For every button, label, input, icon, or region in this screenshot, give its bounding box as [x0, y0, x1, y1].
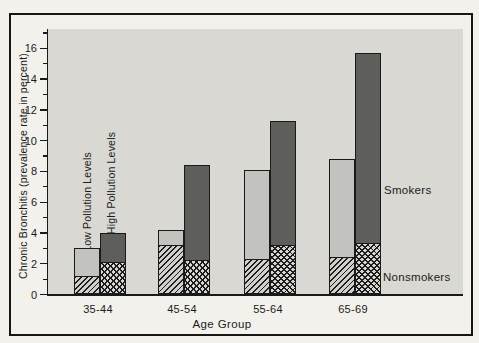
bar-low-pollution	[244, 170, 270, 295]
figure-frame: 0246810121416 35-4445-5455-6465-69 Chron…	[9, 13, 473, 336]
bar-high-pollution	[100, 233, 126, 295]
y-axis-title: Chronic Bronchitis (prevalence rate in p…	[17, 53, 29, 279]
smokers-annotation: Smokers	[384, 184, 431, 196]
bar-nonsmokers-segment	[330, 257, 354, 293]
figure-canvas: 0246810121416 35-4445-5455-6465-69 Chron…	[0, 0, 479, 343]
x-category-label: 55-64	[236, 303, 300, 316]
x-axis-title: Age Group	[162, 318, 282, 330]
bar-nonsmokers-segment	[271, 245, 295, 294]
bar-nonsmokers-segment	[356, 243, 380, 293]
bar-high-pollution	[184, 165, 210, 294]
nonsmokers-annotation: Nonsmokers	[383, 271, 451, 283]
x-category-label: 35-44	[66, 303, 130, 316]
bar-nonsmokers-segment	[245, 259, 269, 294]
low-pollution-series-label: Low Pollution Levels	[81, 152, 93, 252]
bar-nonsmokers-segment	[159, 245, 183, 294]
bar-nonsmokers-segment	[75, 276, 99, 294]
x-category-label: 45-54	[150, 303, 214, 316]
high-pollution-series-label: High Pollution Levels	[105, 132, 117, 234]
bar-high-pollution	[355, 53, 381, 295]
bar-low-pollution	[158, 230, 184, 295]
x-category-label: 65-69	[321, 303, 385, 316]
bar-nonsmokers-segment	[101, 262, 125, 294]
bar-nonsmokers-segment	[185, 260, 209, 293]
bar-low-pollution	[74, 248, 100, 294]
bar-low-pollution	[329, 159, 355, 294]
bar-high-pollution	[270, 121, 296, 295]
